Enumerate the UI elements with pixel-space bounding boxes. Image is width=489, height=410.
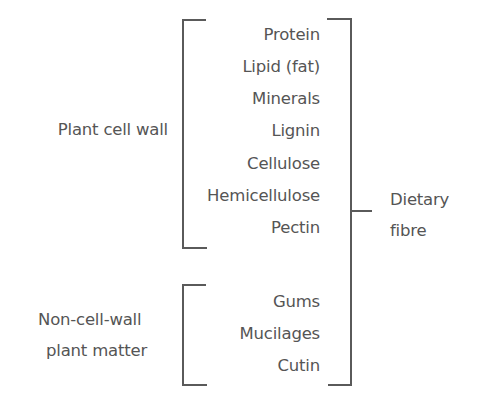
item-cutin: Cutin: [278, 356, 321, 376]
bracket-vertical: [350, 18, 352, 386]
bracket-bottom: [182, 247, 207, 249]
bracket-bottom: [182, 384, 207, 386]
bracket-tick: [350, 210, 372, 212]
label-fibre: fibre: [390, 215, 426, 247]
label-non-cell-wall-line2: plant matter: [46, 335, 147, 367]
item-protein: Protein: [264, 25, 320, 45]
bracket-vertical: [182, 19, 184, 249]
item-minerals: Minerals: [252, 89, 320, 109]
item-pectin: Pectin: [271, 218, 320, 238]
bracket-vertical: [182, 284, 184, 386]
item-gums: Gums: [273, 292, 320, 312]
item-hemicellulose: Hemicellulose: [207, 186, 320, 206]
label-plant-cell-wall: Plant cell wall: [58, 114, 168, 146]
bracket-bottom: [328, 384, 352, 386]
item-cellulose: Cellulose: [247, 154, 320, 174]
bracket-top: [182, 284, 206, 286]
label-non-cell-wall-line1: Non-cell-wall: [38, 304, 141, 336]
item-lipid: Lipid (fat): [242, 57, 320, 77]
item-lignin: Lignin: [271, 121, 320, 141]
bracket-top: [327, 18, 352, 20]
label-dietary: Dietary: [390, 184, 449, 216]
bracket-top: [182, 19, 206, 21]
item-mucilages: Mucilages: [240, 324, 320, 344]
